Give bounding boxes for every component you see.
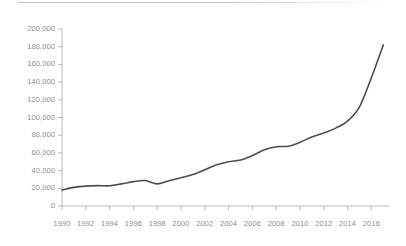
y-tick-label: 200,000 bbox=[15, 25, 55, 33]
y-tick-label: 80,000 bbox=[15, 131, 55, 139]
y-tick-label: 20,000 bbox=[15, 184, 55, 192]
chart-figure: 020,00040,00060,00080,000100,000120,0001… bbox=[0, 0, 406, 246]
y-tick-label: 100,000 bbox=[15, 114, 55, 122]
y-tick-label: 140,000 bbox=[15, 78, 55, 86]
y-tick-label: 0 bbox=[15, 202, 55, 210]
y-tick-label: 40,000 bbox=[15, 167, 55, 175]
data-series-line bbox=[62, 45, 383, 190]
x-tick-label: 2016 bbox=[354, 220, 388, 228]
y-tick-label: 180,000 bbox=[15, 43, 55, 51]
x-axis-ticks bbox=[62, 206, 371, 210]
y-tick-label: 120,000 bbox=[15, 96, 55, 104]
y-axis-ticks bbox=[58, 29, 62, 206]
y-tick-label: 160,000 bbox=[15, 60, 55, 68]
line-chart-plot bbox=[0, 0, 406, 246]
y-tick-label: 60,000 bbox=[15, 149, 55, 157]
